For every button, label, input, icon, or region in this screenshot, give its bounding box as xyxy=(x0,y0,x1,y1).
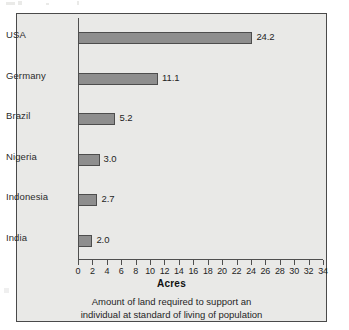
x-axis-tick xyxy=(78,260,79,265)
bar-row: Indonesia2.7 xyxy=(17,194,326,206)
scan-artifact xyxy=(46,3,49,5)
x-axis-tick xyxy=(280,260,281,265)
scan-artifact xyxy=(77,1,79,5)
x-axis-tick xyxy=(309,260,310,265)
category-label: USA xyxy=(6,29,72,40)
bar-value-label: 2.0 xyxy=(96,234,109,245)
category-label: Germany xyxy=(6,70,72,81)
category-label: Brazil xyxy=(6,110,72,121)
category-label: Nigeria xyxy=(6,151,72,162)
bar-value-label: 24.2 xyxy=(256,31,274,42)
x-axis-tick xyxy=(294,260,295,265)
category-label: Indonesia xyxy=(6,191,72,202)
x-axis-tick-label: 34 xyxy=(315,266,331,276)
bar-row: Nigeria3.0 xyxy=(17,154,326,166)
x-axis-tick xyxy=(179,260,180,265)
bar xyxy=(78,154,100,166)
bar xyxy=(78,235,92,247)
x-axis-tick xyxy=(208,260,209,265)
x-axis-tick xyxy=(164,260,165,265)
scan-artifact xyxy=(18,1,22,5)
x-axis-tick xyxy=(150,260,151,265)
plot-area: USA24.2Germany11.1Brazil5.2Nigeria3.0Ind… xyxy=(17,14,326,321)
bar-value-label: 2.7 xyxy=(101,193,114,204)
x-axis-title: Acres xyxy=(17,278,326,289)
caption-line-2: individual at standard of living of popu… xyxy=(17,308,326,321)
bar-row: Germany11.1 xyxy=(17,73,326,85)
bar-value-label: 5.2 xyxy=(119,112,132,123)
category-label: India xyxy=(6,232,72,243)
bar xyxy=(78,73,158,85)
x-axis-tick xyxy=(121,260,122,265)
x-axis-tick xyxy=(237,260,238,265)
y-axis-line xyxy=(78,18,79,260)
x-axis-tick xyxy=(265,260,266,265)
scan-artifact xyxy=(4,288,9,293)
x-axis-tick xyxy=(136,260,137,265)
x-axis-tick xyxy=(193,260,194,265)
caption-line-1: Amount of land required to support an xyxy=(17,295,326,308)
bar-value-label: 3.0 xyxy=(104,153,117,164)
bar-row: India2.0 xyxy=(17,235,326,247)
x-axis-tick xyxy=(92,260,93,265)
x-axis-line xyxy=(78,259,323,260)
bar-row: Brazil5.2 xyxy=(17,113,326,125)
bar xyxy=(78,32,252,44)
bar xyxy=(78,113,115,125)
scan-artifact xyxy=(6,2,15,5)
bar-chart-figure: USA24.2Germany11.1Brazil5.2Nigeria3.0Ind… xyxy=(16,13,327,322)
figure-caption: Amount of land required to support an in… xyxy=(17,295,326,321)
bar xyxy=(78,194,97,206)
x-axis-tick xyxy=(222,260,223,265)
bar-value-label: 11.1 xyxy=(162,72,179,83)
x-axis-tick xyxy=(107,260,108,265)
x-axis-tick xyxy=(251,260,252,265)
bar-row: USA24.2 xyxy=(17,32,326,44)
x-axis-tick xyxy=(323,260,324,265)
